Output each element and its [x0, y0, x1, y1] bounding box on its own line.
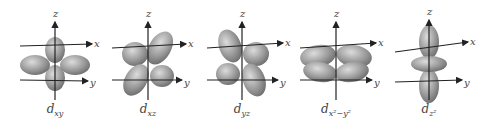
svg-text:y: y [183, 77, 190, 88]
label-dxz: dxz [140, 102, 156, 118]
svg-text:x: x [188, 38, 194, 49]
label-dxy: dxy [47, 102, 64, 118]
svg-text:z: z [52, 8, 59, 19]
svg-text:y: y [373, 77, 380, 88]
svg-text:z: z [239, 8, 246, 19]
svg-text:z: z [426, 6, 433, 17]
label-dyz: dyz [234, 102, 250, 118]
orbital-dx2-y2: z x y [298, 8, 384, 100]
svg-text:x: x [470, 36, 476, 47]
svg-text:y: y [463, 77, 470, 88]
orbital-dz2: z x y [395, 6, 476, 103]
svg-text:y: y [89, 77, 96, 88]
svg-text:x: x [285, 37, 291, 48]
svg-text:x: x [94, 38, 100, 49]
label-dz2: dz² [421, 102, 436, 118]
svg-text:x: x [378, 37, 384, 48]
svg-text:y: y [279, 77, 286, 88]
svg-text:z: z [333, 8, 340, 19]
orbital-dyz: z x y [207, 8, 291, 100]
orbital-dxz: z x y [112, 8, 194, 100]
svg-text:z: z [145, 8, 152, 19]
orbital-dxy: z x y [20, 8, 100, 100]
label-dx2-y2: dx²−y² [321, 102, 351, 118]
